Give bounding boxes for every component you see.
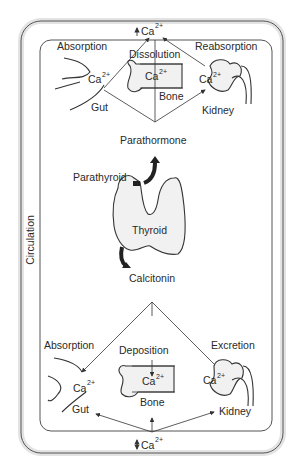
svg-text:2+: 2+: [87, 379, 95, 386]
top-bone-organ: Bone: [159, 90, 184, 102]
bottom-kidney-process: Excretion: [211, 339, 255, 351]
thyroid-gland: Parathyroid Thyroid: [73, 171, 185, 254]
calcium-regulation-diagram: Circulation Ca 2+ Absorption Ca 2+ Gut D…: [0, 0, 300, 464]
top-kidney: Reabsorption Ca 2+ Kidney: [195, 40, 258, 116]
bottom-hormone-label: Calcitonin: [129, 272, 175, 284]
svg-text:2+: 2+: [155, 22, 163, 29]
svg-text:2+: 2+: [156, 373, 164, 380]
svg-text:2+: 2+: [159, 68, 167, 75]
top-bone-ion: Ca: [145, 70, 159, 82]
svg-text:Ca: Ca: [141, 25, 155, 37]
svg-text:2+: 2+: [217, 372, 225, 379]
top-kidney-organ: Kidney: [202, 104, 235, 116]
bottom-gut-ion: Ca: [73, 382, 87, 394]
top-gut-process: Absorption: [57, 40, 107, 52]
top-gut-organ: Gut: [91, 101, 108, 113]
top-hormone-label: Parathormone: [120, 134, 187, 146]
thyroid-label: Thyroid: [132, 224, 167, 236]
bottom-kidney-ion: Ca: [203, 374, 217, 386]
bottom-gut: Absorption Ca 2+ Gut: [44, 339, 95, 415]
bottom-kidney: Excretion Ca 2+ Kidney: [203, 339, 255, 417]
svg-text:2+: 2+: [155, 436, 163, 443]
parathyroid-label: Parathyroid: [73, 171, 127, 183]
parathormone-release-arrow: [144, 156, 160, 183]
bottom-bone-organ: Bone: [140, 396, 165, 408]
top-kidney-ion: Ca: [199, 73, 213, 85]
circulation-label: Circulation: [24, 215, 36, 265]
bottom-bone-process: Deposition: [119, 344, 169, 356]
bottom-bone-ion: Ca: [142, 375, 156, 387]
svg-text:2+: 2+: [102, 71, 110, 78]
top-gut: Absorption Ca 2+ Gut: [55, 40, 110, 113]
svg-text:2+: 2+: [213, 71, 221, 78]
svg-text:Ca: Ca: [141, 439, 155, 451]
bottom-kidney-organ: Kidney: [219, 405, 252, 417]
bottom-circulating-calcium: Ca 2+: [137, 436, 163, 451]
top-gut-ion: Ca: [88, 73, 102, 85]
bottom-gut-organ: Gut: [72, 403, 89, 415]
bottom-bone: Deposition Ca 2+ Bone: [119, 344, 175, 408]
top-kidney-process: Reabsorption: [195, 40, 258, 52]
bottom-gut-process: Absorption: [44, 339, 94, 351]
top-circulating-calcium: Ca 2+: [137, 22, 163, 37]
